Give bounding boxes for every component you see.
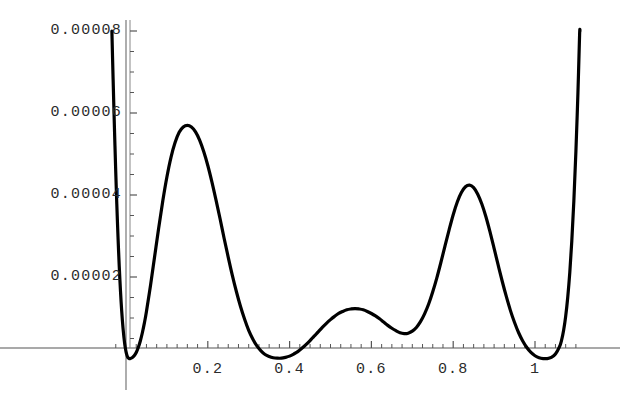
x-axis-tick-label: 0.6 — [331, 362, 411, 377]
x-axis-tick-label: 0.8 — [413, 362, 493, 377]
plot-canvas — [0, 0, 643, 408]
y-axis-tick-label: 0.00002 — [51, 269, 122, 284]
plot-container: 0.000020.000040.000060.00008 0.20.40.60.… — [0, 0, 643, 408]
data-curve — [112, 29, 580, 358]
x-axis-tick-label: 0.2 — [168, 362, 248, 377]
y-axis-ticks — [130, 31, 137, 339]
y-axis-tick-label: 0.00008 — [51, 23, 122, 38]
y-axis-tick-label: 0.00004 — [51, 187, 122, 202]
x-axis-tick-label: 1 — [495, 362, 575, 377]
y-axis-tick-label: 0.00006 — [51, 105, 122, 120]
x-axis-ticks — [116, 341, 576, 348]
x-axis-tick-label: 0.4 — [250, 362, 330, 377]
axes-group — [0, 20, 620, 390]
